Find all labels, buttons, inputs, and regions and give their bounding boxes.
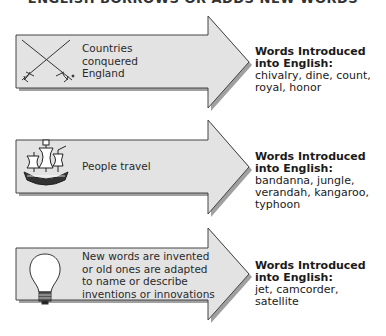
result-words: royal, honor <box>255 82 371 94</box>
result-1: Words Introduced into English: chivalry,… <box>255 46 371 94</box>
cause-text-1: Countries conquered England <box>82 42 138 80</box>
cause-text-2: People travel <box>82 160 151 173</box>
result-2: Words Introduced into English: bandanna,… <box>255 151 369 211</box>
result-words: typhoon <box>255 199 369 211</box>
cause-text-3: New words are invented or old ones are a… <box>82 250 215 300</box>
result-3: Words Introduced into English: jet, camc… <box>255 260 366 308</box>
result-words: satellite <box>255 296 366 308</box>
